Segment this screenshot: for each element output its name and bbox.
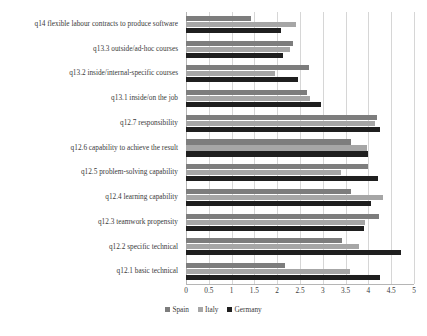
x-axis-tick-labels: 00.511.522.533.544.55 bbox=[186, 286, 414, 298]
x-tick-label: 2 bbox=[275, 286, 279, 295]
bar-spain bbox=[186, 65, 309, 70]
bar-germany bbox=[186, 102, 321, 107]
category-label: q12.7 responsibility bbox=[120, 111, 178, 136]
bar-italy bbox=[186, 170, 341, 175]
bar-italy bbox=[186, 269, 350, 274]
legend-item-germany[interactable]: Germany bbox=[227, 305, 261, 314]
legend-label: Germany bbox=[235, 305, 262, 314]
x-tick-label: 1 bbox=[230, 286, 234, 295]
category-label: q13.1 inside/on the job bbox=[111, 86, 178, 111]
bar-group bbox=[186, 61, 414, 86]
bar-italy bbox=[186, 195, 383, 200]
chart-legend: SpainItalyGermany bbox=[0, 305, 427, 314]
bar-italy bbox=[186, 47, 290, 52]
bar-germany bbox=[186, 77, 298, 82]
bar-italy bbox=[186, 145, 367, 150]
x-tick-label: 4.5 bbox=[387, 286, 396, 295]
bar-germany bbox=[186, 275, 380, 280]
category-label: q12.2 specific technical bbox=[109, 235, 178, 260]
bar-spain bbox=[186, 41, 293, 46]
bar-spain bbox=[186, 16, 251, 21]
legend-item-spain[interactable]: Spain bbox=[165, 305, 189, 314]
category-label: q13.2 inside/internal-specific courses bbox=[69, 61, 178, 86]
bar-spain bbox=[186, 115, 377, 120]
bar-group bbox=[186, 235, 414, 260]
bar-germany bbox=[186, 250, 401, 255]
x-tick-label: 1.5 bbox=[250, 286, 259, 295]
bar-germany bbox=[186, 53, 283, 58]
bar-italy bbox=[186, 96, 310, 101]
legend-item-italy[interactable]: Italy bbox=[198, 305, 218, 314]
bar-spain bbox=[186, 90, 307, 95]
plot-area bbox=[186, 12, 414, 284]
bar-spain bbox=[186, 164, 368, 169]
category-label: q12.3 teamwork propensity bbox=[98, 210, 178, 235]
category-label: q14 flexible labour contracts to produce… bbox=[35, 12, 178, 37]
bar-germany bbox=[186, 151, 368, 156]
x-tick-label: 2.5 bbox=[295, 286, 304, 295]
bar-group bbox=[186, 185, 414, 210]
bar-group bbox=[186, 259, 414, 284]
legend-swatch-icon bbox=[198, 307, 203, 312]
gridline bbox=[414, 12, 415, 284]
category-label: q12.5 problem-solving capability bbox=[81, 160, 178, 185]
bar-chart: q14 flexible labour contracts to produce… bbox=[0, 0, 427, 336]
bar-groups bbox=[186, 12, 414, 284]
x-tick-label: 5 bbox=[412, 286, 416, 295]
bar-italy bbox=[186, 71, 275, 76]
x-axis-line bbox=[186, 284, 414, 285]
category-label: q12.4 learning capability bbox=[105, 185, 178, 210]
legend-swatch-icon bbox=[227, 307, 232, 312]
legend-label: Italy bbox=[205, 305, 218, 314]
legend-label: Spain bbox=[172, 305, 189, 314]
bar-germany bbox=[186, 201, 371, 206]
x-tick-label: 3 bbox=[321, 286, 325, 295]
bar-group bbox=[186, 160, 414, 185]
x-tick-label: 0 bbox=[184, 286, 188, 295]
bar-group bbox=[186, 111, 414, 136]
x-tick-label: 0.5 bbox=[204, 286, 213, 295]
category-label: q13.3 outside/ad-hoc courses bbox=[93, 37, 178, 62]
legend-swatch-icon bbox=[165, 307, 170, 312]
bar-italy bbox=[186, 220, 365, 225]
bar-group bbox=[186, 12, 414, 37]
category-label: q12.6 capability to achieve the result bbox=[71, 136, 178, 161]
bar-germany bbox=[186, 176, 378, 181]
bar-germany bbox=[186, 28, 281, 33]
bar-spain bbox=[186, 238, 342, 243]
bar-spain bbox=[186, 189, 351, 194]
x-tick-label: 3.5 bbox=[341, 286, 350, 295]
bar-italy bbox=[186, 22, 296, 27]
bar-group bbox=[186, 136, 414, 161]
bar-group bbox=[186, 210, 414, 235]
x-tick-label: 4 bbox=[367, 286, 371, 295]
bar-spain bbox=[186, 214, 379, 219]
bar-italy bbox=[186, 121, 375, 126]
bar-italy bbox=[186, 244, 359, 249]
bar-germany bbox=[186, 226, 364, 231]
bar-spain bbox=[186, 263, 285, 268]
bar-spain bbox=[186, 139, 351, 144]
category-label: q12.1 basic technical bbox=[117, 259, 178, 284]
bar-germany bbox=[186, 127, 380, 132]
category-axis-labels: q14 flexible labour contracts to produce… bbox=[0, 12, 182, 284]
bar-group bbox=[186, 86, 414, 111]
bar-group bbox=[186, 37, 414, 62]
